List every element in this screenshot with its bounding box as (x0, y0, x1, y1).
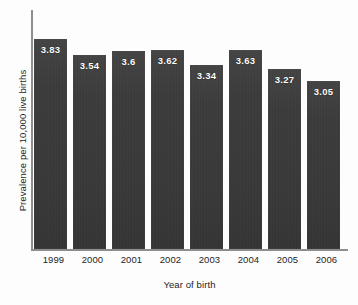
x-tick-label: 1999 (34, 254, 73, 265)
y-axis-line (31, 10, 33, 250)
bar: 3.6 (112, 51, 145, 249)
bar-value-label: 3.83 (34, 44, 67, 55)
x-axis-line (31, 249, 348, 251)
x-tick-label: 2005 (268, 254, 307, 265)
bar: 3.34 (190, 65, 223, 249)
plot-area: 3.833.543.63.623.343.633.273.05 (34, 10, 346, 249)
bar: 3.62 (151, 50, 184, 249)
x-tick-label: 2003 (190, 254, 229, 265)
bar-value-label: 3.63 (229, 55, 262, 66)
bar: 3.83 (34, 39, 67, 249)
bar-value-label: 3.6 (112, 56, 145, 67)
bar-chart-figure: Prevalence per 10,000 live births 3.833.… (0, 0, 358, 305)
bar-value-label: 3.54 (73, 60, 106, 71)
x-tick-label: 2002 (151, 254, 190, 265)
x-axis-tick-labels: 19992000200120022003200420052006 (34, 254, 346, 270)
bar-value-label: 3.34 (190, 70, 223, 81)
x-tick-label: 2000 (73, 254, 112, 265)
bar-value-label: 3.05 (307, 86, 340, 97)
bar-value-label: 3.62 (151, 55, 184, 66)
x-axis-title: Year of birth (31, 279, 348, 290)
bar: 3.54 (73, 55, 106, 249)
x-tick-label: 2001 (112, 254, 151, 265)
x-tick-label: 2006 (307, 254, 346, 265)
y-axis-title: Prevalence per 10,000 live births (17, 36, 28, 246)
bar: 3.05 (307, 81, 340, 249)
bar-value-label: 3.27 (268, 74, 301, 85)
x-tick-label: 2004 (229, 254, 268, 265)
bar: 3.63 (229, 50, 262, 249)
bar: 3.27 (268, 69, 301, 249)
